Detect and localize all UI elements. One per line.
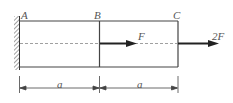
force-F-label: F: [138, 31, 145, 42]
fixed-wall: [14, 16, 20, 70]
bar-diagram: A B C F 2F a a: [0, 0, 233, 103]
bar-outline: [19, 21, 178, 67]
point-A-label: A: [21, 10, 28, 21]
point-C-label: C: [173, 10, 180, 21]
dimension-AB-label: a: [57, 79, 63, 90]
force-F-arrow: [100, 40, 137, 47]
point-B-label: B: [94, 10, 101, 21]
dimension-lines: [20, 76, 179, 93]
force-2F-label: 2F: [212, 31, 224, 42]
diagram-canvas: [0, 0, 233, 103]
dimension-BC-label: a: [137, 79, 143, 90]
